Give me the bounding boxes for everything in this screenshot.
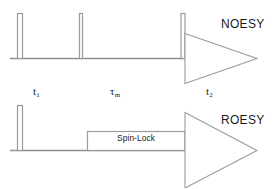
t2-subscript: 2: [209, 91, 213, 99]
roesy-first-90-pulse: [18, 106, 23, 151]
roesy-sequence-title: ROESY: [221, 114, 265, 126]
tau-m-subscript: m: [114, 91, 120, 99]
noesy-second-90-pulse: [80, 14, 83, 59]
mixing-time-label-tau-m: τm: [110, 86, 120, 99]
noesy-fid-triangle: [185, 34, 257, 84]
noesy-first-90-pulse: [18, 14, 23, 59]
detection-time-label-t2: t2: [206, 86, 213, 99]
noesy-sequence: [10, 14, 257, 84]
roesy-sequence: [10, 106, 257, 189]
evolution-time-label-t1: t1: [33, 86, 40, 99]
spin-lock-label: Spin-Lock: [87, 134, 185, 143]
t1-subscript: 1: [36, 91, 40, 99]
noesy-third-90-pulse: [181, 14, 185, 59]
noesy-sequence-title: NOESY: [221, 18, 265, 30]
pulse-sequence-diagram: NOESY ROESY t1 τm t2 Spin-Lock: [0, 0, 278, 188]
